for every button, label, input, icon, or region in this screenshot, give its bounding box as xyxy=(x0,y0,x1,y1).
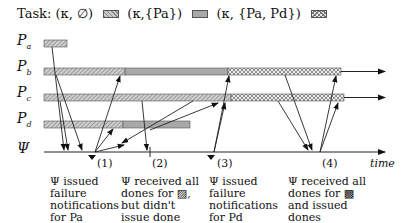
note-4: Ψ received alldones for ▩and issueddones xyxy=(288,176,366,223)
marker-4: (4) xyxy=(322,157,338,170)
pb-bar-hatched xyxy=(44,68,125,75)
note-1: Ψ issuedfailurenotificationsfor Pa xyxy=(50,176,119,223)
marker-2: (2) xyxy=(152,157,168,170)
pb-bar-gray xyxy=(125,68,228,75)
pb-bar-cross xyxy=(228,68,341,75)
note-3: Ψ issuedfailurenotificationsfor Pd xyxy=(209,176,278,223)
arrow-tail-3 xyxy=(207,155,215,160)
marker-3: (3) xyxy=(217,157,233,170)
time-axis-label: time xyxy=(370,157,395,170)
pd-bar-hatched xyxy=(44,121,123,128)
arrow-tail-1 xyxy=(88,155,96,160)
pc-bar-hatched xyxy=(44,94,231,101)
pa-bar xyxy=(44,40,67,47)
note-2: Ψ received alldones for ▨,but didn'tissu… xyxy=(121,176,199,223)
marker-1: (1) xyxy=(97,157,113,170)
pc-bar-cross xyxy=(231,94,344,101)
